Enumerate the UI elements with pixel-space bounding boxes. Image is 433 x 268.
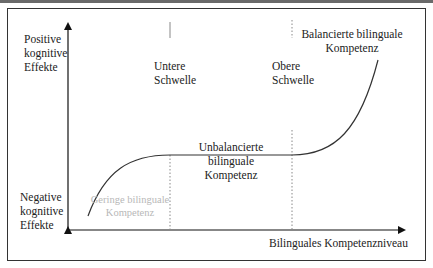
x-axis-label: Bilinguales Kompetenzniveau [269,236,408,250]
positive-effects-label: Positive kognitive Effekte [24,32,67,74]
negative-effects-label: Negative kognitive Effekte [20,190,63,232]
low-competence-label: Geringe bilinguale Kompetenz [90,193,170,219]
unbalanced-competence-label: Unbalancierte bilinguale Kompetenz [176,140,286,182]
balanced-competence-label: Balancierte bilinguale Kompetenz [296,27,408,55]
upper-threshold-label: Obere Schwelle [272,59,314,87]
lower-threshold-label: Untere Schwelle [154,59,196,87]
